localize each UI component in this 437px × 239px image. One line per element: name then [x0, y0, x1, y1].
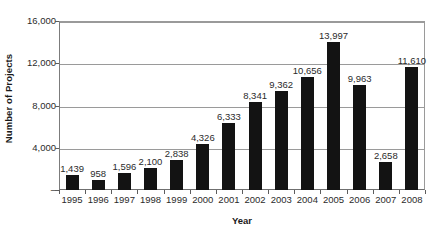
bar: [353, 85, 366, 190]
x-axis-tick-label: 1995: [59, 195, 85, 205]
y-axis-tick-mark: [55, 148, 59, 149]
x-axis-tick-mark: [347, 190, 348, 194]
x-axis-tick-label: 1997: [111, 195, 137, 205]
x-axis-title: Year: [59, 215, 425, 226]
bar: [118, 173, 131, 190]
x-axis-tick-label: 1996: [85, 195, 111, 205]
x-axis-tick-mark: [242, 190, 243, 194]
x-axis-tick-mark: [216, 190, 217, 194]
bar-value-label: 6,333: [203, 112, 255, 122]
x-axis-tick-mark: [320, 190, 321, 194]
x-axis-tick-label: 2002: [242, 195, 268, 205]
x-axis-tick-label: 2006: [347, 195, 373, 205]
x-axis-tick-label: 2003: [268, 195, 294, 205]
x-axis-tick-mark: [399, 190, 400, 194]
bar-value-label: 9,963: [334, 74, 386, 84]
x-axis-tick-mark: [59, 190, 60, 194]
bar-value-label: 13,997: [308, 31, 360, 41]
y-axis-title-label: Number of Projects: [4, 53, 15, 142]
x-axis-tick-mark: [425, 190, 426, 194]
x-axis-tick-mark: [164, 190, 165, 194]
y-axis-tick-mark: [55, 21, 59, 22]
x-axis-tick-mark: [190, 190, 191, 194]
x-axis-tick-label: 2000: [190, 195, 216, 205]
x-axis-tick-label: 2004: [294, 195, 320, 205]
bar-chart: Number of Projects 16,00012,0008,0004,00…: [0, 0, 437, 239]
bar-value-label: 2,838: [151, 149, 203, 159]
x-axis-tick-mark: [373, 190, 374, 194]
bar: [196, 144, 209, 190]
bar-value-label: 2,658: [360, 151, 412, 161]
bar: [92, 180, 105, 190]
bar: [144, 168, 157, 190]
x-axis-tick-mark: [137, 190, 138, 194]
bar-value-label: 10,656: [281, 66, 333, 76]
x-axis-tick-labels: 1995199619971998199920002001200220032004…: [59, 195, 425, 209]
x-axis-tick-label: 2001: [216, 195, 242, 205]
y-axis-tick-label: 12,000: [18, 58, 56, 68]
bar-value-label: 9,362: [255, 80, 307, 90]
bar: [301, 77, 314, 190]
x-axis-tick-label: 2008: [399, 195, 425, 205]
bar-value-label: 11,610: [386, 56, 437, 66]
bar: [249, 102, 262, 190]
y-axis-tick-labels: 16,00012,0008,0004,000–: [16, 0, 56, 239]
bar-value-label: 8,341: [229, 91, 281, 101]
y-axis-tick-mark: [55, 106, 59, 107]
y-axis-tick-label: 8,000: [18, 101, 56, 111]
bar: [405, 67, 418, 190]
x-axis-tick-label: 1999: [164, 195, 190, 205]
bar: [327, 42, 340, 190]
x-axis-tick-label: 1998: [137, 195, 163, 205]
y-axis-tick-label: –: [18, 185, 56, 195]
bar: [275, 91, 288, 190]
x-axis-tick-mark: [85, 190, 86, 194]
x-axis-tick-label: 2005: [320, 195, 346, 205]
bar: [170, 160, 183, 190]
x-axis-tick-mark: [111, 190, 112, 194]
y-axis-tick-label: 16,000: [18, 16, 56, 26]
y-axis-tick-mark: [55, 63, 59, 64]
x-axis-tick-mark: [268, 190, 269, 194]
y-axis-tick-label: 4,000: [18, 143, 56, 153]
x-axis-tick-label: 2007: [373, 195, 399, 205]
bar: [222, 123, 235, 190]
bar-value-label: 4,326: [177, 133, 229, 143]
x-axis-tick-mark: [294, 190, 295, 194]
bar: [379, 162, 392, 190]
